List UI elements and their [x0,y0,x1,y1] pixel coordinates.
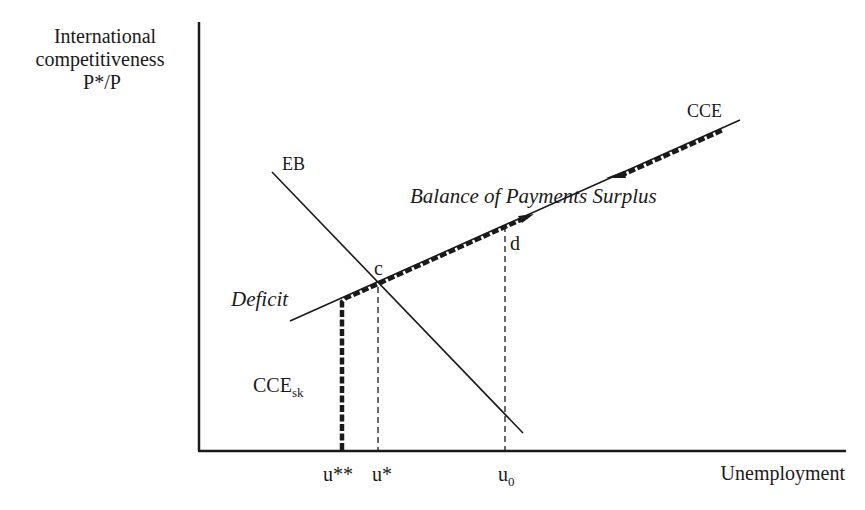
point-d-label: d [510,232,520,254]
deficit-label: Deficit [230,287,289,311]
x-axis-label: Unemployment [721,462,846,485]
surplus-label: Balance of Payments Surplus [410,184,657,208]
diagram-canvas: International competitiveness P*/P Unemp… [0,0,865,510]
cce-sk-label: CCEsk [253,374,304,400]
eb-label: EB [282,154,305,174]
y-axis-label-line1: International [54,25,157,47]
tick-u0-base: u [498,463,508,485]
point-c-label: c [374,257,383,279]
cce-sk-label-sub: sk [292,385,304,400]
eb-line [272,172,523,433]
tick-u0: u0 [498,463,515,489]
cce-upper-tail [606,171,626,178]
cce-sk-path [342,217,527,450]
cce-sk-label-base: CCE [253,374,292,396]
y-axis-label-line3: P*/P [83,71,121,93]
y-axis-label-line2: competitiveness [36,48,165,71]
tick-u-double-star: u** [323,463,353,485]
cce-upper-dashed-segment [620,130,723,176]
cce-label: CCE [687,101,722,121]
tick-u0-sub: 0 [508,474,515,489]
tick-u-star: u* [372,463,392,485]
